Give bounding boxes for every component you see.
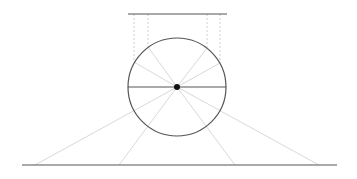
ray-line	[177, 48, 207, 87]
ray-line	[134, 62, 177, 87]
projection-diagram	[0, 0, 357, 179]
upper-rays	[134, 47, 220, 87]
ray-line	[177, 87, 319, 165]
lower-rays	[35, 87, 319, 165]
ray-line	[148, 47, 177, 87]
ray-line	[177, 63, 220, 87]
center-dot	[174, 84, 180, 90]
ray-line	[35, 87, 177, 165]
